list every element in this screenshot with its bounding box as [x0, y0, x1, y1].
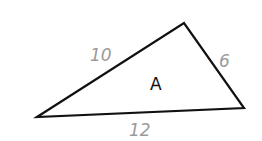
triangle-shape	[37, 23, 244, 117]
triangle-diagram: 10 6 12 A	[0, 0, 262, 141]
side-label-bottom: 12	[129, 120, 151, 140]
side-label-right: 6	[219, 51, 230, 71]
region-label-a: A	[150, 74, 162, 94]
side-label-left: 10	[90, 45, 112, 65]
